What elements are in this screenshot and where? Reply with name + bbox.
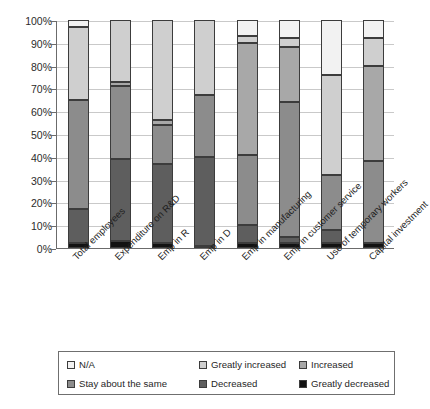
bar-total-employees[interactable] [68, 20, 89, 248]
bar-segment[interactable] [321, 20, 342, 75]
bar-segment[interactable] [110, 86, 131, 159]
legend-item[interactable]: Decreased [199, 379, 257, 389]
legend-item[interactable]: Increased [299, 360, 353, 370]
bar-segment[interactable] [363, 38, 384, 65]
y-axis-tick-label: 70% [10, 84, 52, 94]
bar-segment[interactable] [279, 20, 300, 38]
legend-swatch-icon [199, 380, 207, 388]
legend-swatch-icon [199, 361, 207, 369]
legend-swatch-icon [67, 380, 75, 388]
bar-segment[interactable] [152, 20, 173, 120]
gridline [57, 21, 394, 22]
bar-segment[interactable] [321, 75, 342, 175]
bar-segment[interactable] [110, 82, 131, 87]
legend-swatch-icon [67, 361, 75, 369]
y-axis-tick-label: 20% [10, 198, 52, 208]
plot-frame [56, 21, 394, 249]
y-axis-tick-label: 80% [10, 62, 52, 72]
gridline [57, 89, 394, 90]
legend-item[interactable]: Stay about the same [67, 379, 167, 389]
bar-segment[interactable] [363, 66, 384, 162]
gridline [57, 44, 394, 45]
gridline [57, 67, 394, 68]
bar-segment[interactable] [279, 38, 300, 47]
legend-label: Decreased [211, 379, 257, 389]
bar-segment[interactable] [68, 27, 89, 100]
bar-emp-in-manufacturing[interactable] [237, 20, 258, 248]
legend-swatch-icon [299, 361, 307, 369]
chart-legend: N/AGreatly increasedIncreasedStay about … [58, 351, 395, 395]
gridline [57, 135, 394, 136]
plot-area [56, 21, 394, 249]
y-axis-tick-label: 50% [10, 130, 52, 140]
y-axis-tick-label: 90% [10, 39, 52, 49]
legend-label: Stay about the same [79, 379, 167, 389]
legend-label: Greatly increased [211, 360, 286, 370]
gridline [57, 112, 394, 113]
legend-item[interactable]: Greatly increased [199, 360, 286, 370]
gridline [57, 181, 394, 182]
y-axis-tick-label: 10% [10, 221, 52, 231]
y-axis-tick-label: 60% [10, 107, 52, 117]
bar-segment[interactable] [194, 157, 215, 246]
bar-segment[interactable] [363, 20, 384, 38]
bar-segment[interactable] [68, 20, 89, 27]
y-axis-tick-mark [50, 249, 56, 250]
bar-segment[interactable] [237, 155, 258, 226]
y-axis-tick-label: 30% [10, 176, 52, 186]
bar-segment[interactable] [152, 120, 173, 125]
bar-segment[interactable] [194, 95, 215, 157]
legend-label: Greatly decreased [311, 379, 389, 389]
gridline [57, 158, 394, 159]
legend-swatch-icon [299, 380, 307, 388]
y-axis-tick-label: 0% [10, 244, 52, 254]
legend-label: N/A [79, 360, 95, 370]
y-axis-tick-label: 40% [10, 153, 52, 163]
bar-segment[interactable] [152, 125, 173, 164]
bar-segment[interactable] [237, 43, 258, 155]
legend-item[interactable]: Greatly decreased [299, 379, 389, 389]
legend-item[interactable]: N/A [67, 360, 95, 370]
y-axis-tick-label: 100% [10, 16, 52, 26]
bar-segment[interactable] [68, 100, 89, 209]
bar-segment[interactable] [110, 159, 131, 241]
bar-emp-in-d[interactable] [194, 20, 215, 248]
bar-segment[interactable] [237, 20, 258, 36]
bar-segment[interactable] [237, 36, 258, 43]
legend-label: Increased [311, 360, 353, 370]
bar-segment[interactable] [110, 20, 131, 82]
bar-segment[interactable] [279, 47, 300, 102]
bar-segment[interactable] [194, 20, 215, 95]
